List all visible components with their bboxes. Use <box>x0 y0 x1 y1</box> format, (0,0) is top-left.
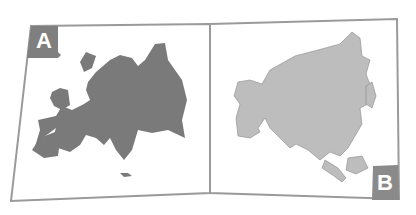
panel-b-label: B <box>377 172 393 194</box>
panel-a-label: A <box>36 30 52 52</box>
map-illustration <box>0 0 416 215</box>
